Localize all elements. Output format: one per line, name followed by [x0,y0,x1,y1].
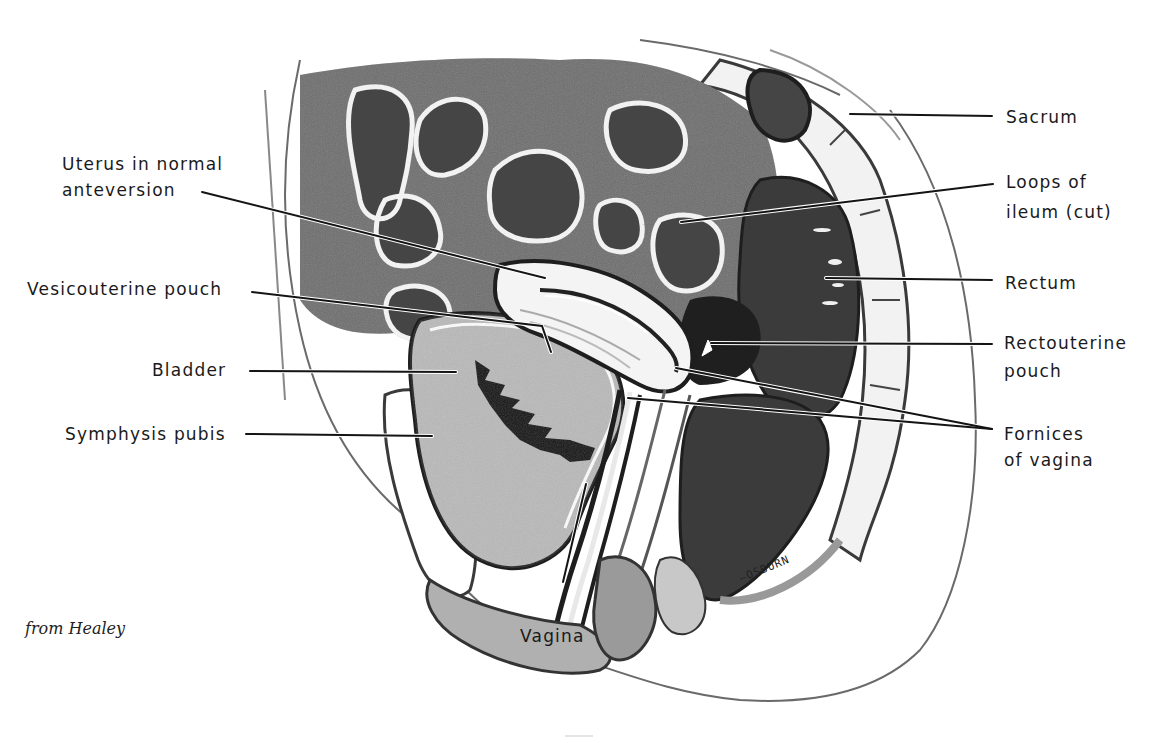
label-bladder: Bladder [152,357,226,383]
label-vesicouterine-pouch: Vesicouterine pouch [27,276,222,302]
label-symphysis-pubis: Symphysis pubis [65,421,226,447]
label-vagina: Vagina [520,623,585,649]
figure-credit: from Healey [25,619,125,638]
label-sacrum: Sacrum [1006,104,1078,130]
label-loops-of-ileum: Loops of ileum (cut) [1006,169,1112,225]
label-uterus: Uterus in normal anteversion [62,151,223,203]
figure-caption-cropped [565,735,593,743]
label-rectouterine-pouch: Rectouterine pouch [1004,330,1127,384]
label-rectum: Rectum [1005,270,1077,296]
label-fornices-of-vagina: Fornices of vagina [1004,421,1094,473]
